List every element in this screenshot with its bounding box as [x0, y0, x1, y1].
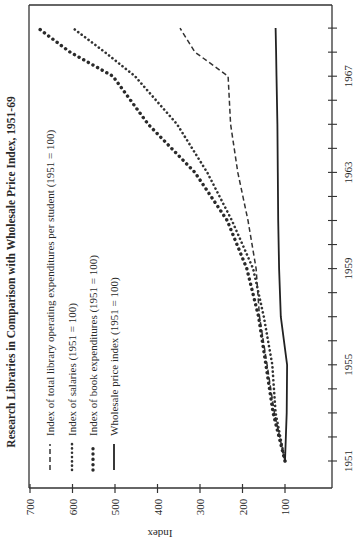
- y-tick-label: 700: [24, 498, 36, 515]
- x-tick-label: 1959: [342, 257, 354, 280]
- x-tick-label: 1955: [342, 353, 354, 376]
- legend-label: Wholesale price index (1951 = 100): [108, 277, 121, 436]
- y-tick-label: 400: [152, 498, 164, 515]
- chart-title: Research Libraries in Comparison with Wh…: [5, 96, 18, 448]
- legend-label: Index of salaries (1951 = 100): [66, 303, 79, 436]
- y-tick-label: 300: [194, 498, 206, 515]
- series-salaries-line: [73, 28, 285, 461]
- y-tick-label: 100: [279, 498, 291, 515]
- x-tick-label: 1967: [342, 65, 354, 88]
- series-wholesale-price-line: [276, 28, 288, 461]
- y-axis-label: Index: [147, 528, 173, 540]
- chart: Research Libraries in Comparison with Wh…: [0, 0, 361, 543]
- legend: Index of total library operating expendi…: [44, 129, 121, 470]
- y-tick-label: 200: [237, 498, 249, 515]
- y-tick-label: 500: [109, 498, 121, 515]
- legend-label: Index of book expenditures (1951 = 100): [87, 255, 100, 436]
- x-tick-label: 1963: [342, 161, 354, 184]
- x-tick-label: 1951: [342, 450, 354, 472]
- legend-label: Index of total library operating expendi…: [44, 129, 57, 436]
- series-operating-expenditures-line: [180, 28, 285, 461]
- y-axis-ticks: 100200300400500600700: [24, 484, 291, 515]
- y-tick-label: 600: [67, 498, 79, 515]
